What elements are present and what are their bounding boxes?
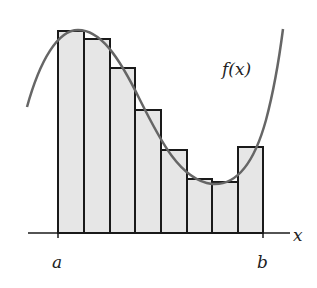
rectangle-6 [187, 179, 212, 233]
interval-end-label: b [257, 252, 268, 272]
rectangle-4 [135, 110, 161, 233]
rectangle-7 [212, 182, 238, 233]
interval-start-label: a [52, 252, 62, 272]
rectangle-5 [161, 150, 187, 233]
function-label: f(x) [220, 59, 251, 79]
riemann-sum-diagram: f(x) x a b [0, 0, 317, 288]
rectangle-2 [84, 39, 110, 233]
rectangle-1 [58, 31, 84, 233]
rectangle-3 [110, 68, 135, 233]
axis-label-x: x [293, 225, 303, 245]
